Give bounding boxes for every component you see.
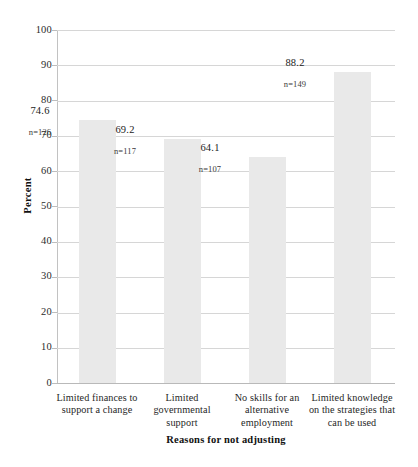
x-category-label-1: Limitedgovernmentalsupport bbox=[136, 392, 228, 429]
y-tick-label-100: 100 bbox=[22, 25, 52, 35]
x-category-line: support a change bbox=[51, 404, 143, 416]
gridline-100 bbox=[57, 30, 395, 31]
x-category-line: governmental bbox=[136, 404, 228, 416]
y-tick-label-20: 20 bbox=[22, 307, 52, 317]
x-category-line: can be used bbox=[306, 417, 398, 429]
x-category-line: Limited bbox=[136, 392, 228, 404]
y-tick-label-40: 40 bbox=[22, 236, 52, 246]
x-category-label-3: Limited knowledgeon the strategies thatc… bbox=[306, 392, 398, 429]
x-category-label-0: Limited finances tosupport a change bbox=[51, 392, 143, 417]
bar-limited-knowledge-strategies[interactable] bbox=[334, 72, 371, 383]
bar-value-label-1: 69.2 bbox=[90, 124, 160, 135]
bar-count-label-0: n=126 bbox=[5, 128, 75, 137]
y-tick-label-30: 30 bbox=[22, 271, 52, 281]
x-category-line: alternative bbox=[221, 404, 313, 416]
y-tick-label-10: 10 bbox=[22, 342, 52, 352]
bar-chart: 100 90 80 70 60 50 40 30 20 10 0 Percent bbox=[0, 0, 418, 467]
x-category-line: Limited knowledge bbox=[306, 392, 398, 404]
y-tick-label-80: 80 bbox=[22, 95, 52, 105]
x-category-label-2: No skills for analternativeemployment bbox=[221, 392, 313, 429]
x-category-line: Limited finances to bbox=[51, 392, 143, 404]
y-axis-title: Percent bbox=[22, 161, 33, 231]
x-axis-title: Reasons for not adjusting bbox=[57, 434, 395, 445]
gridline-0 bbox=[57, 383, 395, 384]
y-axis-tick-labels: 100 90 80 70 60 50 40 30 20 10 0 bbox=[18, 0, 52, 467]
plot-area bbox=[57, 30, 395, 383]
gridline-90 bbox=[57, 65, 395, 66]
x-category-line: on the strategies that bbox=[306, 404, 398, 416]
bar-count-label-2: n=107 bbox=[175, 165, 245, 174]
bar-count-label-1: n=117 bbox=[90, 147, 160, 156]
x-category-line: No skills for an bbox=[221, 392, 313, 404]
y-tick-label-90: 90 bbox=[22, 60, 52, 70]
bar-count-label-3: n=149 bbox=[260, 80, 330, 89]
x-category-line: employment bbox=[221, 417, 313, 429]
x-category-line: support bbox=[136, 417, 228, 429]
bar-limited-governmental-support[interactable] bbox=[164, 139, 201, 383]
y-tick-label-0: 0 bbox=[22, 378, 52, 388]
bar-limited-finances[interactable] bbox=[79, 120, 116, 383]
bar-value-label-2: 64.1 bbox=[175, 142, 245, 153]
bar-no-skills-alternative-employment[interactable] bbox=[249, 157, 286, 383]
bar-value-label-3: 88.2 bbox=[260, 57, 330, 68]
bar-value-label-0: 74.6 bbox=[5, 105, 75, 116]
